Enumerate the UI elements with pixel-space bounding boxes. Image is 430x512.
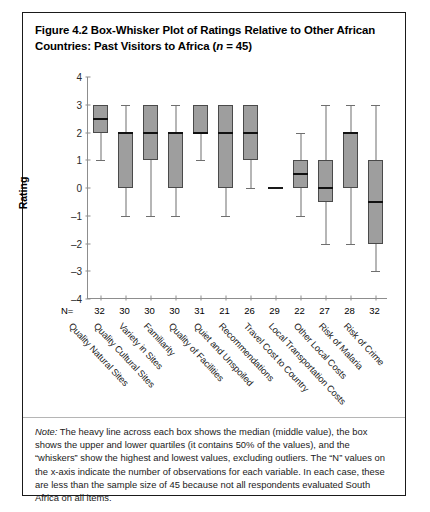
- x-axis-tick-mark: [225, 296, 226, 301]
- n-value: 30: [119, 305, 130, 316]
- x-axis-category-labels: Quality Natural SitesQuality Cultural Si…: [87, 321, 387, 413]
- box-quartile-rect: [218, 105, 233, 188]
- n-value: 30: [169, 305, 180, 316]
- y-axis-tick-mark: [86, 243, 91, 244]
- box-median-flat: [268, 187, 283, 189]
- whisker-cap-upper: [346, 105, 355, 106]
- x-axis-tick-mark: [125, 296, 126, 301]
- whisker-cap-lower: [321, 244, 330, 245]
- figure-note: Note: The heavy line across each box sho…: [35, 425, 391, 504]
- x-axis-tick-mark: [375, 296, 376, 301]
- n-value: 32: [369, 305, 380, 316]
- n-value: 30: [144, 305, 155, 316]
- whisker-upper: [300, 133, 301, 161]
- whisker-lower: [100, 133, 101, 161]
- whisker-cap-lower: [346, 244, 355, 245]
- n-value: 28: [344, 305, 355, 316]
- box-median-line: [243, 132, 258, 134]
- y-axis-tick-mark: [86, 188, 91, 189]
- box-quartile-rect: [118, 133, 133, 189]
- whisker-cap-lower: [146, 216, 155, 217]
- box-median-line: [143, 132, 158, 134]
- whisker-lower: [175, 188, 176, 216]
- whisker-lower: [325, 202, 326, 244]
- box-median-line: [368, 201, 383, 203]
- box-median-line: [293, 173, 308, 175]
- figure-title-line-2-pre: Countries: Past Visitors to Africa (: [35, 40, 216, 52]
- whisker-upper: [175, 105, 176, 133]
- whisker-lower: [300, 188, 301, 216]
- y-axis-tick-mark: [86, 104, 91, 105]
- box-median-line: [168, 132, 183, 134]
- x-axis-tick-mark: [250, 296, 251, 301]
- x-axis-tick-mark: [350, 296, 351, 301]
- whisker-lower: [375, 244, 376, 272]
- x-axis-tick-mark: [325, 296, 326, 301]
- n-value: 31: [194, 305, 205, 316]
- whisker-cap-lower: [96, 160, 105, 161]
- figure-title-line-1: Figure 4.2 Box-Whisker Plot of Ratings R…: [35, 23, 393, 39]
- figure-title-line-2: Countries: Past Visitors to Africa (n = …: [35, 39, 393, 55]
- x-axis-tick-mark: [150, 296, 151, 301]
- box-whisker-plot: Rating 43210–1–2–3–4 N= 3230303031212629…: [29, 71, 401, 331]
- whisker-cap-upper: [321, 105, 330, 106]
- whisker-lower: [225, 188, 226, 216]
- whisker-cap-lower: [121, 216, 130, 217]
- box-quartile-rect: [193, 105, 208, 133]
- whisker-cap-upper: [296, 133, 305, 134]
- note-body: The heavy line across each box shows the…: [35, 426, 385, 503]
- x-axis-tick-mark: [175, 296, 176, 301]
- figure-title-line-2-post: = 45): [223, 40, 252, 52]
- box-median-line: [343, 132, 358, 134]
- whisker-cap-upper: [371, 105, 380, 106]
- n-value: 26: [244, 305, 255, 316]
- plot-area: 43210–1–2–3–4: [87, 77, 387, 299]
- x-axis-tick-mark: [300, 296, 301, 301]
- x-axis-tick-mark: [275, 296, 276, 301]
- whisker-lower: [350, 188, 351, 244]
- whisker-cap-lower: [196, 160, 205, 161]
- whisker-lower: [150, 160, 151, 216]
- whisker-cap-lower: [246, 188, 255, 189]
- box-quartile-rect: [318, 160, 333, 202]
- whisker-cap-lower: [171, 216, 180, 217]
- x-axis-tick-mark: [200, 296, 201, 301]
- n-values-row: N= 323030303121262922272832: [87, 305, 387, 319]
- y-axis-tick-mark: [86, 160, 91, 161]
- whisker-upper: [325, 105, 326, 161]
- x-axis-tick-mark: [100, 296, 101, 301]
- y-axis-tick-mark: [86, 132, 91, 133]
- n-value: 32: [94, 305, 105, 316]
- whisker-lower: [200, 133, 201, 161]
- box-median-line: [218, 132, 233, 134]
- box-median-line: [193, 132, 208, 134]
- whisker-cap-upper: [171, 105, 180, 106]
- box-median-line: [318, 187, 333, 189]
- note-separator: [23, 417, 405, 418]
- box-quartile-rect: [343, 133, 358, 189]
- whisker-cap-lower: [221, 216, 230, 217]
- whisker-lower: [250, 160, 251, 188]
- y-axis-tick-mark: [86, 215, 91, 216]
- n-value: 21: [219, 305, 230, 316]
- box-quartile-rect: [168, 133, 183, 189]
- y-axis-tick-mark: [86, 299, 91, 300]
- whisker-upper: [125, 105, 126, 133]
- y-axis-tick-mark: [86, 271, 91, 272]
- whisker-cap-lower: [296, 216, 305, 217]
- box-median-line: [118, 132, 133, 134]
- whisker-cap-upper: [121, 105, 130, 106]
- n-value: 22: [294, 305, 305, 316]
- whisker-lower: [125, 188, 126, 216]
- n-prefix-label: N=: [61, 305, 73, 316]
- y-axis-tick-mark: [86, 77, 91, 78]
- note-prefix: Note:: [35, 426, 57, 437]
- whisker-upper: [350, 105, 351, 133]
- n-value: 27: [319, 305, 330, 316]
- box-median-line: [93, 118, 108, 120]
- n-value: 29: [269, 305, 280, 316]
- y-axis-title: Rating: [17, 177, 29, 210]
- figure-title: Figure 4.2 Box-Whisker Plot of Ratings R…: [35, 23, 393, 54]
- whisker-cap-lower: [371, 271, 380, 272]
- figure-card: Figure 4.2 Box-Whisker Plot of Ratings R…: [22, 12, 406, 496]
